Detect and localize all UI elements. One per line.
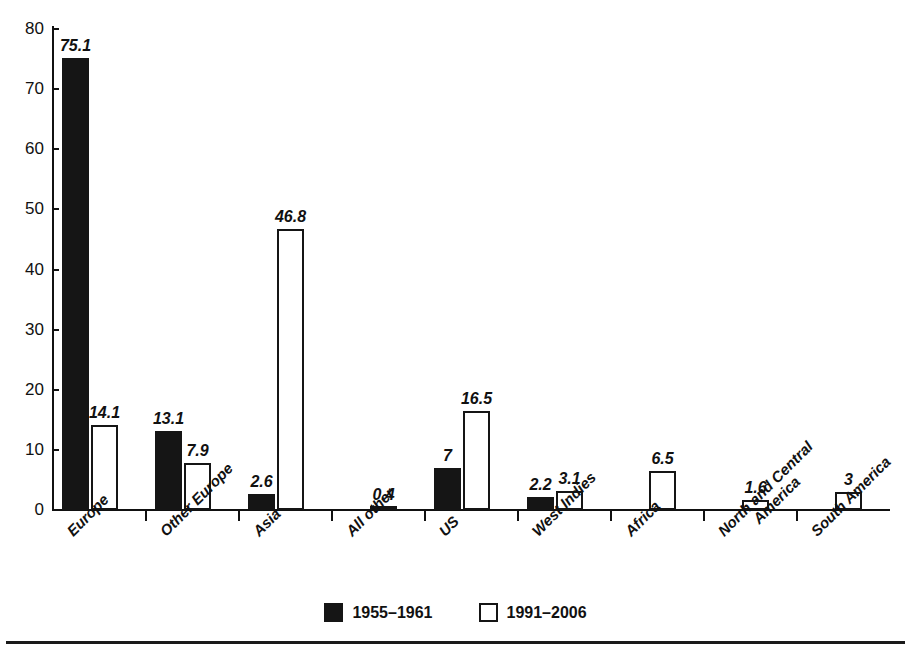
bar-value-label: 7.9 (172, 443, 223, 459)
chart-legend: 1955–19611991–2006 (0, 603, 911, 622)
y-axis-tick-label: 40 (4, 261, 44, 278)
y-axis-tick-label: 10 (4, 441, 44, 458)
legend-swatch (324, 603, 343, 622)
bar (463, 411, 490, 510)
legend-label: 1991–2006 (507, 604, 587, 622)
legend-label: 1955–1961 (352, 604, 432, 622)
bar-value-label: 46.8 (265, 209, 316, 225)
bar-value-label: 75.1 (50, 38, 101, 54)
y-axis-tick-label: 30 (4, 321, 44, 338)
legend-swatch (479, 603, 498, 622)
x-axis-tick (145, 511, 147, 521)
x-axis-label: US (436, 513, 462, 539)
bar-value-label: 14.1 (79, 405, 130, 421)
x-axis-tick (517, 511, 519, 521)
legend-item: 1955–1961 (324, 603, 432, 622)
bar-value-label: 13.1 (143, 411, 194, 427)
bar (434, 468, 461, 510)
y-axis-tick-label: 20 (4, 381, 44, 398)
y-axis-tick-label: 0 (4, 501, 44, 518)
x-axis-tick (331, 511, 333, 521)
plot-area: 75.114.113.17.92.646.80.4716.52.23.16.51… (52, 29, 891, 510)
x-axis-tick (238, 511, 240, 521)
bar (277, 229, 304, 510)
x-axis-tick (424, 511, 426, 521)
y-axis-tick-label: 50 (4, 200, 44, 217)
x-axis-label-line: US (436, 513, 462, 539)
y-axis-tick-label: 80 (4, 20, 44, 37)
bar (62, 58, 89, 510)
bottom-divider (6, 641, 905, 644)
bar-chart: 01020304050607080 75.114.113.17.92.646.8… (0, 0, 911, 654)
legend-item: 1991–2006 (479, 603, 587, 622)
y-axis-tick-label: 60 (4, 140, 44, 157)
bar-value-label: 16.5 (451, 391, 502, 407)
y-axis-tick-label: 70 (4, 80, 44, 97)
x-axis-tick (610, 511, 612, 521)
x-axis-tick (703, 511, 705, 521)
bar-value-label: 6.5 (637, 451, 688, 467)
x-axis-tick (796, 511, 798, 521)
